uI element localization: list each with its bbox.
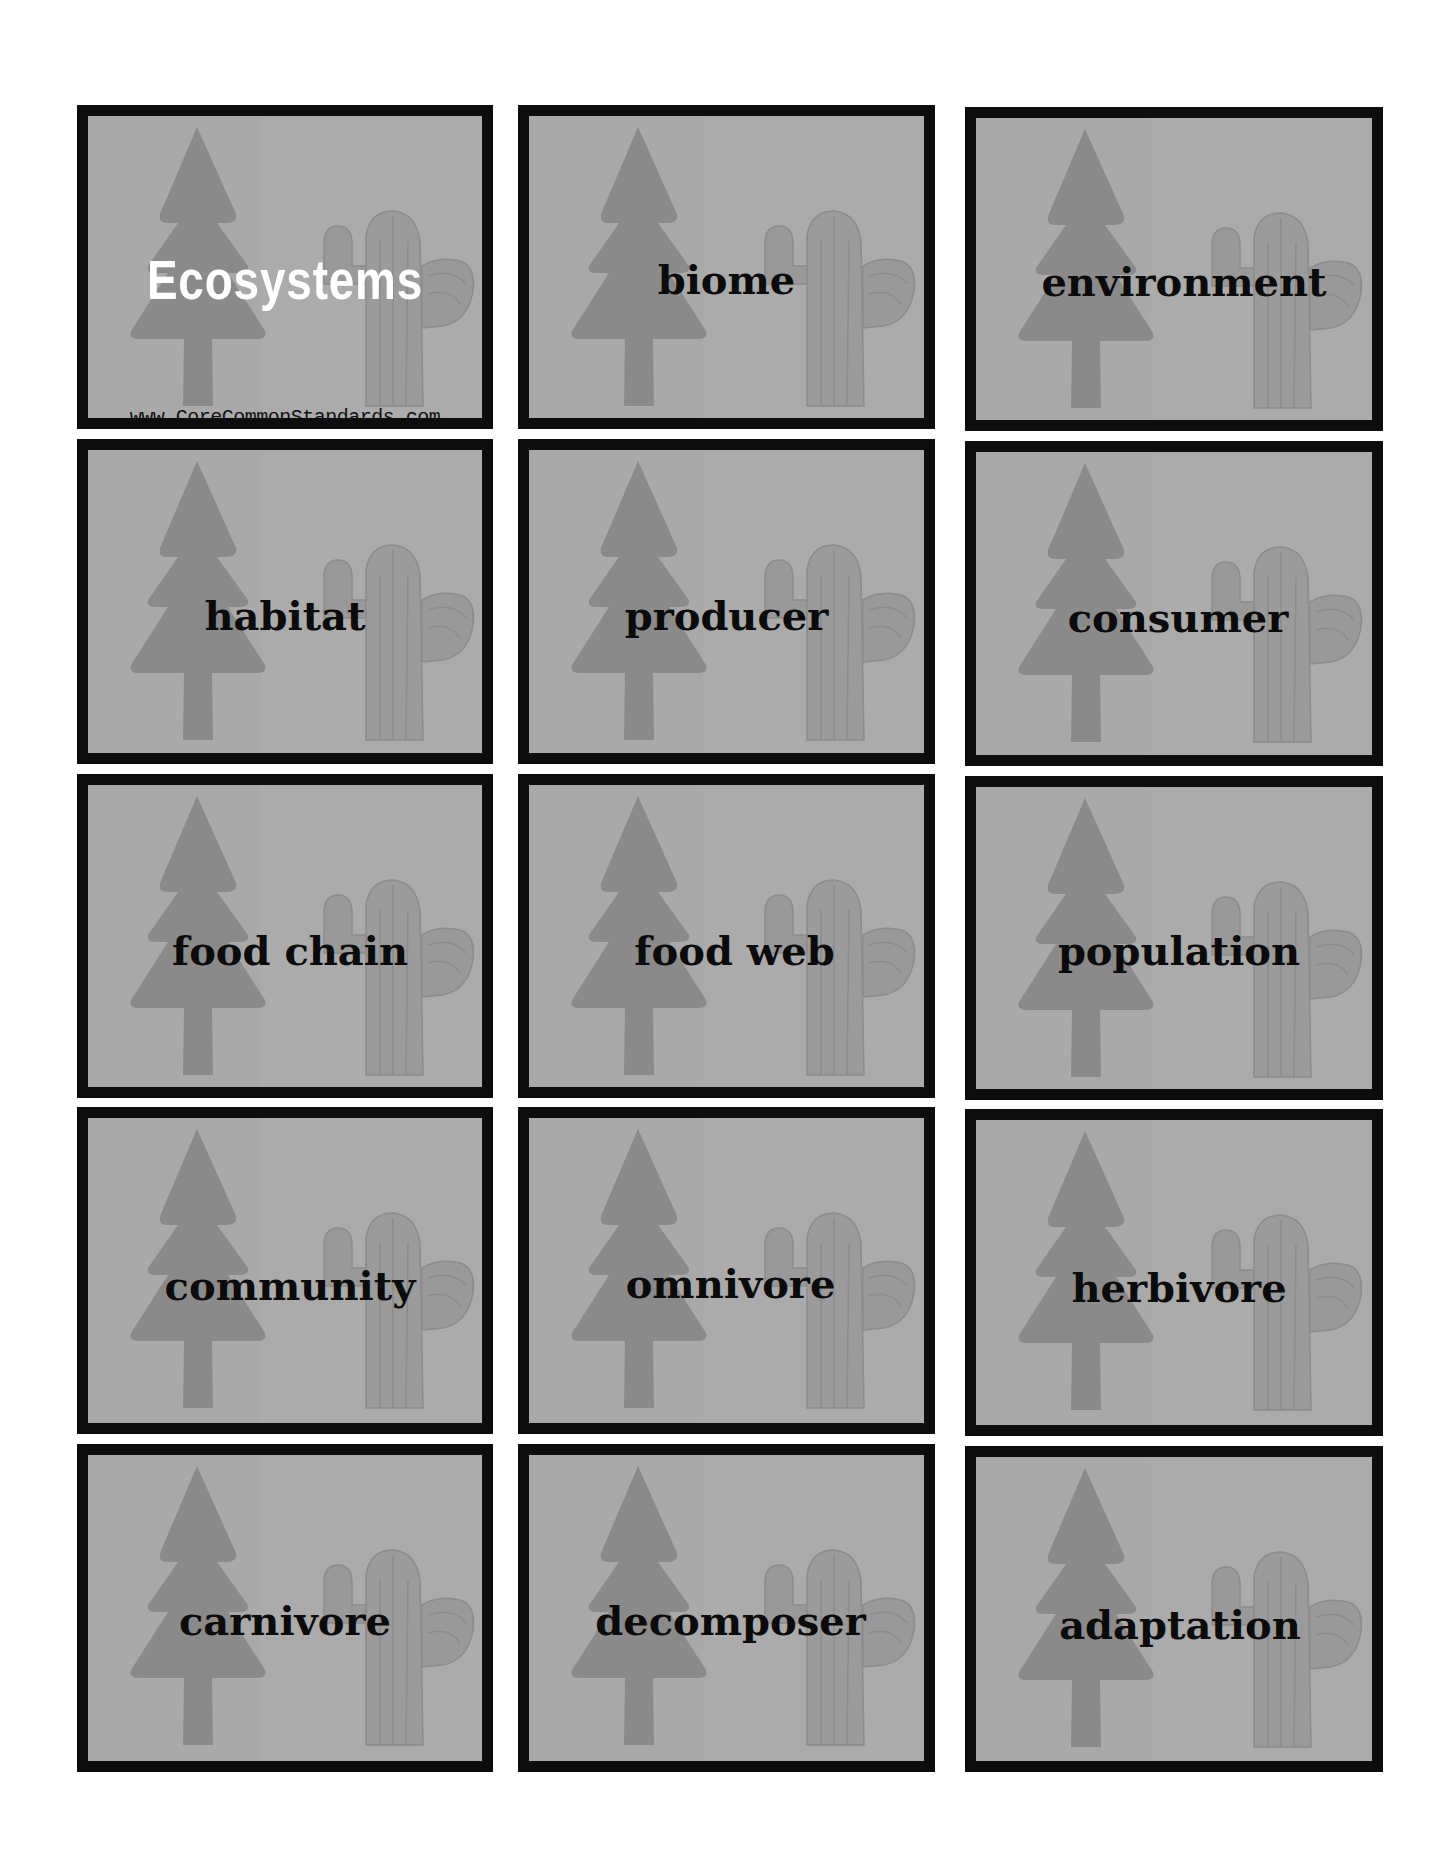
cactus-icon bbox=[765, 1550, 914, 1745]
card-term: population bbox=[986, 931, 1372, 971]
flashcard[interactable]: habitat bbox=[77, 439, 493, 764]
flashcard[interactable]: community bbox=[77, 1107, 493, 1434]
flashcard[interactable]: environment bbox=[965, 107, 1383, 431]
card-term: herbivore bbox=[986, 1268, 1372, 1308]
cactus-icon bbox=[1212, 1552, 1361, 1747]
cactus-icon bbox=[765, 545, 914, 740]
source-url: www.CoreCommonStandards.com bbox=[88, 408, 482, 428]
card-term: consumer bbox=[984, 598, 1372, 638]
cactus-icon bbox=[324, 1550, 473, 1745]
card-term: adaptation bbox=[988, 1605, 1372, 1645]
cactus-icon bbox=[765, 880, 914, 1075]
title-card: Ecosystems www.CoreCommonStandards.com bbox=[77, 105, 493, 429]
flashcard[interactable]: adaptation bbox=[965, 1446, 1383, 1772]
flashcard[interactable]: biome bbox=[518, 105, 935, 429]
flashcard[interactable]: producer bbox=[518, 439, 935, 764]
cactus-icon bbox=[1212, 213, 1361, 408]
cactus-icon bbox=[324, 1213, 473, 1408]
flashcard[interactable]: consumer bbox=[965, 441, 1383, 766]
card-term: community bbox=[98, 1266, 482, 1306]
card-term: producer bbox=[529, 596, 924, 636]
flashcard[interactable]: population bbox=[965, 776, 1383, 1100]
card-term: decomposer bbox=[537, 1601, 924, 1641]
flashcard[interactable]: food chain bbox=[77, 774, 493, 1098]
cactus-icon bbox=[1212, 882, 1361, 1077]
card-term: environment bbox=[996, 262, 1372, 302]
cactus-icon bbox=[324, 880, 473, 1075]
cactus-icon bbox=[765, 1213, 914, 1408]
deck-title: Ecosystems bbox=[123, 252, 446, 308]
card-term: habitat bbox=[88, 596, 482, 636]
flashcard[interactable]: carnivore bbox=[77, 1444, 493, 1772]
cactus-icon bbox=[1212, 1215, 1361, 1410]
flashcard[interactable]: decomposer bbox=[518, 1444, 935, 1772]
flashcard[interactable]: herbivore bbox=[965, 1109, 1383, 1436]
card-term: carnivore bbox=[88, 1601, 482, 1641]
card-term: food chain bbox=[98, 931, 482, 971]
cactus-icon bbox=[1212, 547, 1361, 742]
flashcard[interactable]: food web bbox=[518, 774, 935, 1098]
flashcard[interactable]: omnivore bbox=[518, 1107, 935, 1434]
cactus-icon bbox=[324, 545, 473, 740]
cactus-icon bbox=[765, 211, 914, 406]
card-term: omnivore bbox=[537, 1264, 924, 1304]
card-term: biome bbox=[529, 260, 924, 300]
card-term: food web bbox=[545, 931, 924, 971]
